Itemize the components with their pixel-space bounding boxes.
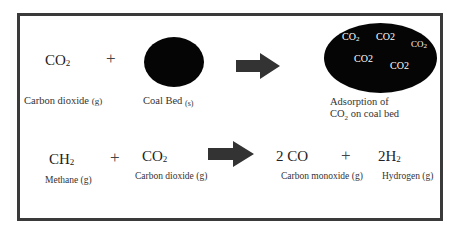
plus-sign: + — [106, 49, 116, 69]
co2-molecule: CO2 — [390, 60, 409, 71]
co2-formula: CO2 — [45, 52, 70, 69]
methane-label: Methane (g) — [45, 175, 92, 185]
co2-molecule: CO2 — [354, 53, 373, 64]
carbon-monoxide-label: Carbon monoxide (g) — [281, 171, 363, 181]
plus-sign: + — [110, 148, 120, 168]
co2-formula: CO2 — [142, 148, 167, 165]
carbon-dioxide-label: Carbon dioxide (g) — [135, 171, 207, 181]
adsorption-label: Adsorption of CO2 on coal bed — [330, 96, 399, 124]
coal-bed-label: Coal Bed (s) — [143, 95, 193, 108]
co2-molecule: CO2 — [342, 31, 359, 43]
plus-sign: + — [341, 146, 351, 166]
right-arrow-icon — [236, 53, 282, 79]
adsorbed-coal-ellipse: CO2 CO2 CO2 CO2 CO2 — [324, 23, 437, 93]
carbon-monoxide-formula: 2 CO — [276, 148, 308, 165]
coal-bed-circle — [144, 37, 204, 87]
hydrogen-formula: 2H2 — [378, 148, 401, 165]
carbon-dioxide-label: Carbon dioxide (g) — [24, 95, 102, 106]
right-arrow-icon — [208, 141, 256, 167]
co2-molecule: CO2 — [376, 31, 395, 42]
ch4-formula: CH2 — [49, 151, 74, 168]
co2-molecule: CO2 — [411, 39, 427, 50]
hydrogen-label: Hydrogen (g) — [382, 171, 433, 181]
